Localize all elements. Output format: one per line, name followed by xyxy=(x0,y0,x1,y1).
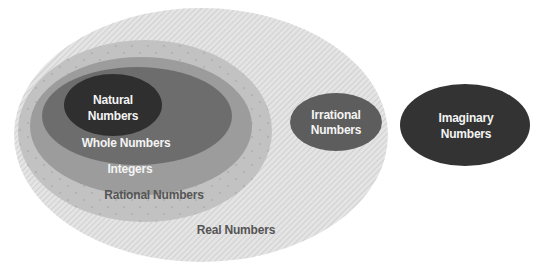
irrational-numbers-label-line1: Irrational xyxy=(311,108,360,122)
irrational-numbers-ellipse xyxy=(290,93,382,151)
irrational-numbers-label-line2: Numbers xyxy=(311,123,362,137)
number-sets-diagram: Natural Numbers Whole Numbers Integers R… xyxy=(0,0,550,267)
set-imaginary-numbers xyxy=(400,84,530,166)
whole-numbers-label: Whole Numbers xyxy=(82,136,171,150)
rational-numbers-label: Rational Numbers xyxy=(104,188,204,202)
natural-numbers-label-line1: Natural xyxy=(93,93,133,107)
imaginary-numbers-label-line2: Numbers xyxy=(441,127,492,141)
set-irrational-numbers xyxy=(290,93,382,151)
natural-numbers-label-line2: Numbers xyxy=(88,109,139,123)
integers-label: Integers xyxy=(107,162,153,176)
real-numbers-label: Real Numbers xyxy=(197,223,276,237)
imaginary-numbers-ellipse xyxy=(400,84,530,166)
imaginary-numbers-label-line1: Imaginary xyxy=(439,111,494,125)
